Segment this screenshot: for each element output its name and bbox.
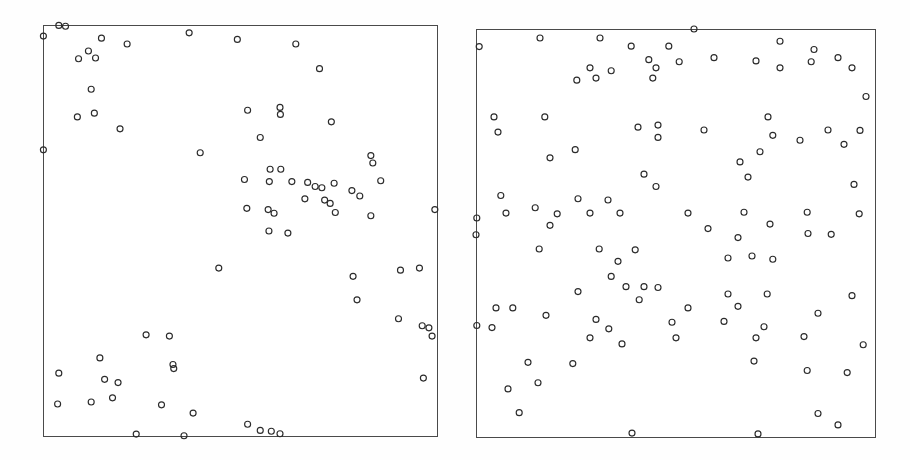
scatter-panel-right[interactable]: [476, 29, 876, 438]
scatter-panel-left[interactable]: [43, 25, 438, 437]
figure-canvas: [0, 0, 910, 460]
panel-frame-right: [476, 29, 876, 438]
panel-frame-left: [43, 25, 438, 437]
